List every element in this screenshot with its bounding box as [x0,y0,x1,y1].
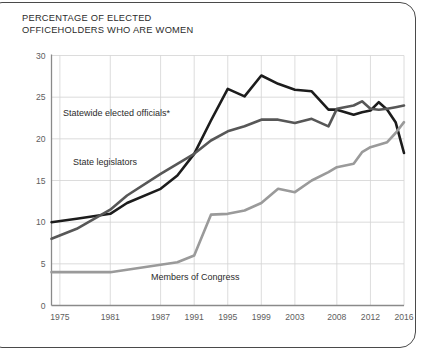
series-label: Statewide elected officials* [63,108,170,118]
y-tick-label: 15 [36,176,46,186]
x-tick-label: 1999 [252,312,271,322]
x-tick-label: 2016 [394,312,413,322]
x-tick-label: 1991 [185,312,204,322]
gridlines-group [52,56,405,306]
series-label: Members of Congress [151,272,240,282]
series-annotation-labels: Statewide elected officials*State legisl… [63,108,240,282]
y-tick-label: 30 [36,51,46,61]
line-chart-plot: 051015202530 197519811987199119951999200… [0,0,444,359]
y-axis-tick-labels: 051015202530 [36,51,46,311]
y-tick-label: 10 [36,217,46,227]
x-tick-label: 1981 [101,312,120,322]
screenshot-root: PERCENTAGE OF ELECTED OFFICEHOLDERS WHO … [0,0,444,359]
y-tick-label: 0 [41,301,46,311]
series-label: State legislators [73,157,138,167]
x-tick-label: 1987 [151,312,170,322]
x-tick-label: 1975 [50,312,69,322]
y-tick-label: 20 [36,134,46,144]
x-axis-tick-labels: 1975198119871991199519992003200820122016 [50,312,413,322]
x-tick-label: 2012 [361,312,380,322]
x-tick-label: 1995 [218,312,237,322]
x-tick-label: 2003 [285,312,304,322]
y-tick-label: 25 [36,92,46,102]
y-tick-label: 5 [41,259,46,269]
x-tick-label: 2008 [327,312,346,322]
chart-figure: PERCENTAGE OF ELECTED OFFICEHOLDERS WHO … [0,0,444,359]
